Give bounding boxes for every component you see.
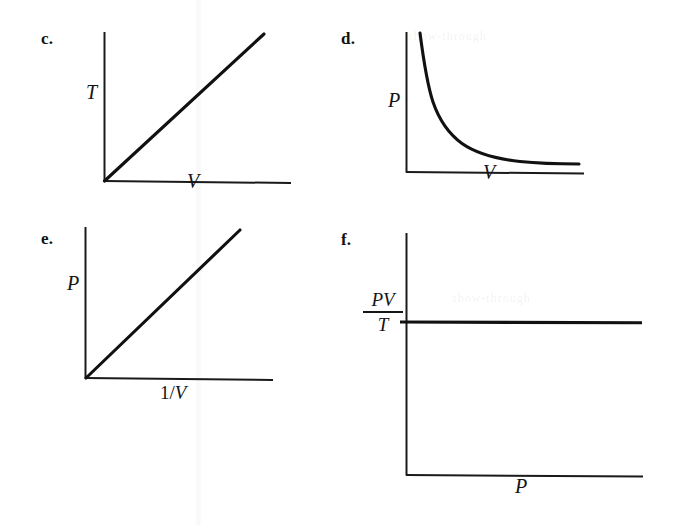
panel-e-x-axis-label: 1/V (160, 382, 186, 404)
panel-d-label: d. (341, 29, 355, 49)
panel-f-fraction-bar (363, 311, 403, 313)
panel-f-data-line (400, 322, 642, 323)
panel-e-x-label-denominator: V (175, 382, 187, 403)
panel-d-x-axis-label: V (483, 161, 495, 184)
panel-c: c. T V (0, 0, 340, 210)
panel-f-x-axis-label: P (515, 475, 527, 498)
panel-c-y-axis-label: T (86, 81, 97, 104)
panel-f-y-axis-label: PV T (363, 290, 403, 334)
panel-d-data-curve (420, 33, 579, 164)
panel-c-label: c. (41, 29, 53, 49)
panel-e-y-axis-label: P (67, 272, 79, 295)
panel-f: f. show-through PV T P (340, 210, 679, 525)
figure-page: c. T V d. show-through P V e. (0, 0, 679, 525)
panel-f-plot (340, 210, 679, 525)
panel-f-y-label-denominator: T (363, 314, 403, 334)
panel-c-x-axis-label: V (187, 170, 199, 193)
panel-d-y-axis-label: P (388, 89, 400, 112)
panel-f-y-label-numerator: PV (363, 290, 403, 310)
panel-e-data-line (86, 230, 240, 378)
panel-e-x-label-numerator: 1 (160, 382, 170, 403)
panel-e-label: e. (41, 229, 53, 249)
panel-f-label: f. (341, 230, 351, 250)
panel-e: e. P 1/V (0, 210, 340, 420)
panel-d: d. show-through P V (340, 0, 679, 210)
panel-c-data-line (105, 34, 265, 181)
panel-e-x-axis (85, 378, 273, 380)
